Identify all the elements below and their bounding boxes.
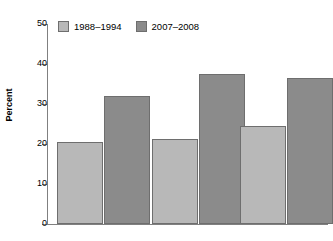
y-tick-50: 50	[0, 24, 47, 25]
y-tick-label: 50	[11, 19, 47, 28]
bar-2-series1	[152, 139, 198, 224]
y-tick-40: 40	[0, 64, 47, 65]
y-tick-label: 20	[11, 139, 47, 148]
legend-label: 1988–1994	[74, 22, 122, 32]
bar-3-series1	[240, 126, 286, 224]
legend-swatch-icon	[58, 21, 69, 32]
y-tick-0: 0	[0, 224, 47, 225]
legend-item-2007-2008: 2007–2008	[136, 21, 200, 32]
y-tick-label: 30	[11, 99, 47, 108]
y-axis-line	[47, 24, 48, 224]
bar-1-series2	[104, 96, 150, 224]
y-tick-label: 10	[11, 179, 47, 188]
legend: 1988–1994 2007–2008	[58, 21, 199, 32]
y-tick-label: 0	[11, 219, 47, 228]
x-axis-line	[47, 224, 328, 225]
bar-3-series2	[287, 78, 333, 224]
bar-1-series1	[57, 142, 103, 224]
y-tick-20: 20	[0, 144, 47, 145]
legend-swatch-icon	[136, 21, 147, 32]
legend-item-1988-1994: 1988–1994	[58, 21, 122, 32]
y-tick-30: 30	[0, 104, 47, 105]
bar-2-series2	[199, 74, 245, 224]
y-tick-label: 40	[11, 59, 47, 68]
legend-label: 2007–2008	[152, 22, 200, 32]
y-tick-10: 10	[0, 184, 47, 185]
